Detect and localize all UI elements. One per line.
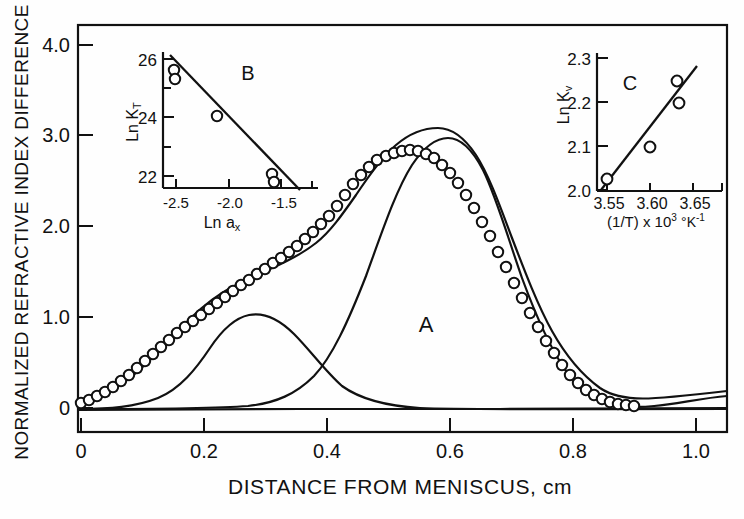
data-point <box>461 190 471 200</box>
inset-c-xtick-label: 3.60 <box>636 195 667 212</box>
data-point <box>493 247 503 257</box>
data-point <box>212 111 222 121</box>
main-ytick-label: 2.0 <box>42 215 70 237</box>
data-point <box>549 348 559 358</box>
data-point <box>485 231 495 241</box>
inset-b-xtick-label: -2.0 <box>217 194 243 211</box>
inset-b-x-axis-title: Ln ax <box>204 214 241 233</box>
component-2-curve <box>79 138 727 409</box>
data-point <box>674 98 685 109</box>
data-point <box>541 336 551 346</box>
main-x-ticks <box>81 418 696 432</box>
main-ytick-label: 0 <box>59 397 70 419</box>
data-point <box>340 190 350 200</box>
data-point <box>557 360 567 370</box>
inset-c-ytick-label: 2.0 <box>567 182 591 201</box>
main-ytick-label: 1.0 <box>42 306 70 328</box>
inset-c-xtick-label: 3.55 <box>593 195 624 212</box>
main-xtick-label: 0.4 <box>313 440 341 462</box>
main-y-tick-labels: 4.0 3.0 2.0 1.0 0 <box>42 34 70 419</box>
total-fit-curve <box>79 128 727 400</box>
panel-label-b: B <box>241 62 254 84</box>
data-point <box>629 401 639 411</box>
data-point <box>602 174 613 185</box>
panel-label-a: A <box>419 312 434 337</box>
data-point <box>501 262 511 272</box>
data-point <box>517 293 527 303</box>
inset-c-regression-line <box>601 66 697 190</box>
inset-b-xtick-label: -1.5 <box>271 194 297 211</box>
main-ytick-label: 3.0 <box>42 124 70 146</box>
data-point <box>525 308 535 318</box>
inset-c-x-axis-title: (1/T) x 103 °K-1 <box>607 212 705 230</box>
main-x-tick-labels: 0 0.2 0.4 0.6 0.8 1.0 <box>75 440 709 462</box>
inset-b-xtick-label: -2.5 <box>163 194 189 211</box>
inset-b-data-points <box>169 65 279 187</box>
inset-b-ytick-label: 26 <box>138 51 157 70</box>
main-xtick-label: 0 <box>75 440 86 462</box>
panel-label-c: C <box>623 72 637 94</box>
data-point <box>332 201 342 211</box>
data-point <box>645 142 656 153</box>
data-point <box>269 177 279 187</box>
inset-c-xtick-label: 3.65 <box>679 195 710 212</box>
main-xtick-label: 0.6 <box>436 440 464 462</box>
inset-c-y-axis-title: Ln Kv <box>555 85 574 124</box>
inset-c-ytick-label: 2.3 <box>567 50 591 69</box>
data-point <box>533 322 543 332</box>
data-point <box>324 211 334 221</box>
data-point <box>509 278 519 288</box>
main-x-axis-title: DISTANCE FROM MENISCUS, cm <box>228 475 572 498</box>
figure-container: 4.0 3.0 2.0 1.0 0 0 0.2 0.4 0.6 0.8 1.0 … <box>0 0 744 519</box>
main-xtick-label: 0.2 <box>190 440 218 462</box>
inset-c-x-tick-labels: 3.55 3.60 3.65 <box>593 195 710 212</box>
inset-b-y-axis-title: Ln KT <box>124 102 143 142</box>
data-point <box>477 217 487 227</box>
main-y-axis-title: NORMALIZED REFRACTIVE INDEX DIFFERENCE <box>11 4 32 459</box>
inset-b-x-tick-labels: -2.5 -2.0 -1.5 <box>163 194 297 211</box>
data-point <box>170 74 180 84</box>
data-point <box>348 179 358 189</box>
main-y-ticks <box>78 45 93 408</box>
main-ytick-label: 4.0 <box>42 34 70 56</box>
inset-c-ytick-label: 2.1 <box>567 138 591 157</box>
main-data-points <box>76 145 639 411</box>
data-point <box>469 203 479 213</box>
main-xtick-label: 1.0 <box>682 440 710 462</box>
inset-b-regression-line <box>170 55 300 190</box>
inset-c: 2.3 2.2 2.1 2.0 3.55 3.60 3.65 Ln Kv (1/… <box>555 50 722 230</box>
scientific-figure: 4.0 3.0 2.0 1.0 0 0 0.2 0.4 0.6 0.8 1.0 … <box>0 0 744 519</box>
inset-c-x-ticks <box>607 183 722 191</box>
inset-c-data-points <box>602 76 685 185</box>
data-point <box>453 178 463 188</box>
inset-c-y-ticks <box>597 58 608 190</box>
inset-c-y-tick-labels: 2.3 2.2 2.1 2.0 <box>567 50 591 201</box>
inset-b-ytick-label: 22 <box>138 168 157 187</box>
data-point <box>445 168 455 178</box>
main-xtick-label: 0.8 <box>559 440 587 462</box>
inset-b: 26 24 22 -2.5 -2.0 -1.5 Ln KT Ln ax <box>124 51 318 233</box>
data-point <box>672 76 683 87</box>
